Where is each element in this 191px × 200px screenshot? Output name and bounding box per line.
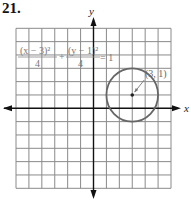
center-point-label: (3, 1) (145, 68, 167, 80)
x-axis-arrow-right (172, 105, 181, 111)
x-axis-arrow-left (3, 105, 12, 111)
equation-plus: + (59, 51, 65, 62)
x-axis-label: x (183, 102, 189, 114)
y-axis-label: y (88, 5, 94, 17)
equation-label: (x − 3)² 4 + (y − 1)² 4 = 1 (18, 45, 113, 69)
equation-rhs: = 1 (100, 52, 113, 63)
equation-numerator-2: (y − 1)² (68, 45, 98, 57)
coordinate-plane: (x − 3)² 4 + (y − 1)² 4 = 1 x y (3, 1) (0, 0, 191, 200)
equation-denominator-1: 4 (35, 58, 40, 69)
equation-denominator-2: 4 (78, 58, 83, 69)
y-axis-arrow-up (91, 17, 97, 26)
y-axis-arrow-down (91, 190, 97, 199)
equation-numerator-1: (x − 3)² (20, 45, 50, 57)
center-point (130, 93, 134, 97)
